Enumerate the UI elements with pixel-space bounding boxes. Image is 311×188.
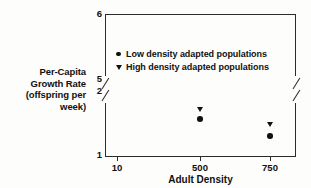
x-tick-label-10: 10 [102, 162, 132, 173]
y-axis-title-line-2: Growth Rate [0, 78, 86, 90]
data-point-low-density-500 [197, 116, 203, 122]
y-axis-title-line-1: Per-Capita [0, 66, 86, 78]
triangle-down-marker-icon [113, 58, 124, 76]
legend-item-low-density: Low density adapted populations [113, 47, 269, 60]
y-tick-label-5: 5 [86, 74, 102, 84]
x-tick-mark-750 [270, 157, 271, 161]
scatter-chart-figure: Per-Capita Growth Rate (offspring per we… [0, 0, 311, 188]
y-axis-title-line-3: (offspring per week) [0, 89, 86, 112]
x-tick-mark-500 [200, 157, 201, 161]
y-axis-title: Per-Capita Growth Rate (offspring per we… [0, 66, 86, 112]
data-point-low-density-750 [267, 133, 273, 139]
x-tick-mark-10 [117, 157, 118, 161]
chart-legend: Low density adapted populations High den… [113, 47, 269, 73]
y-tick-label-6: 6 [86, 9, 102, 19]
y-tick-label-1: 1 [86, 150, 102, 160]
y-tick-label-2: 2 [86, 86, 102, 96]
x-axis-title: Adult Density [105, 174, 296, 185]
x-tick-label-750: 750 [255, 162, 285, 173]
x-tick-label-500: 500 [185, 162, 215, 173]
data-point-high-density-500 [197, 107, 203, 112]
data-point-high-density-750 [267, 122, 273, 127]
legend-label-high-density: High density adapted populations [126, 62, 269, 72]
legend-item-high-density: High density adapted populations [113, 60, 269, 73]
legend-label-low-density: Low density adapted populations [126, 49, 267, 59]
